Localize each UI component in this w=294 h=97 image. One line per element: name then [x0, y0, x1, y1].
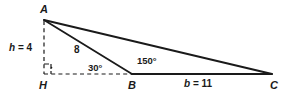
side-b-value: 11	[202, 78, 213, 89]
side-b-equals: =	[190, 78, 201, 89]
vertex-label-c: C	[270, 80, 278, 91]
height-label: h = 4	[9, 43, 32, 53]
side-ab-length-label: 8	[74, 45, 80, 55]
height-value: 4	[27, 42, 33, 53]
angle-label-abh: 30°	[88, 63, 102, 73]
side-b-length-label: b = 11	[184, 79, 212, 89]
vertex-label-b: B	[128, 80, 136, 91]
vertex-label-h: H	[39, 80, 47, 91]
right-angle-dot-icon	[51, 67, 53, 69]
height-equals: =	[15, 42, 26, 53]
geometry-diagram: A H B C h = 4 8 b = 11 30° 150°	[0, 0, 294, 97]
right-angle-marker	[44, 64, 51, 74]
angle-label-abc: 150°	[137, 56, 157, 66]
vertex-label-a: A	[40, 4, 48, 15]
